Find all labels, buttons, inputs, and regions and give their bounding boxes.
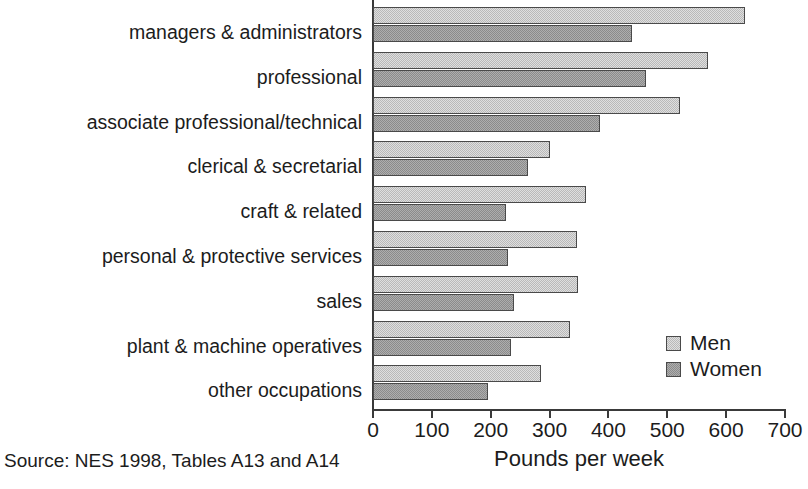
legend-label: Women xyxy=(690,358,762,380)
legend-swatch-men-icon xyxy=(666,336,681,351)
category-label: clerical & secretarial xyxy=(2,156,362,176)
bar-men xyxy=(373,321,570,338)
legend-item-men: Men xyxy=(666,330,762,356)
bar-women xyxy=(373,115,600,132)
x-tick-mark xyxy=(549,411,551,418)
category-label: plant & machine operatives xyxy=(2,336,362,356)
category-label: associate professional/technical xyxy=(2,112,362,132)
x-axis-line xyxy=(372,409,786,411)
category-label: other occupations xyxy=(2,380,362,400)
x-tick-label: 0 xyxy=(367,418,379,442)
x-tick-mark xyxy=(607,411,609,418)
x-axis-title: Pounds per week xyxy=(373,446,785,472)
category-label: personal & protective services xyxy=(2,246,362,266)
bar-women xyxy=(373,249,508,266)
bar-women xyxy=(373,294,514,311)
bar-men xyxy=(373,7,745,24)
category-label: managers & administrators xyxy=(2,22,362,42)
bar-men xyxy=(373,276,578,293)
legend-swatch-women-icon xyxy=(666,362,681,377)
category-label: sales xyxy=(2,291,362,311)
bar-men xyxy=(373,141,550,158)
x-tick-label: 100 xyxy=(414,418,449,442)
bar-chart-figure: managers & administratorsprofessionalass… xyxy=(0,0,808,489)
x-tick-mark xyxy=(490,411,492,418)
x-tick-mark xyxy=(666,411,668,418)
chart-legend: MenWomen xyxy=(666,330,762,382)
source-note: Source: NES 1998, Tables A13 and A14 xyxy=(4,450,340,472)
bar-women xyxy=(373,25,632,42)
x-tick-label: 700 xyxy=(767,418,802,442)
category-label: professional xyxy=(2,67,362,87)
bar-men xyxy=(373,231,577,248)
bar-women xyxy=(373,204,506,221)
x-tick-label: 500 xyxy=(650,418,685,442)
x-tick-label: 200 xyxy=(473,418,508,442)
legend-item-women: Women xyxy=(666,356,762,382)
bar-women xyxy=(373,339,511,356)
category-label: craft & related xyxy=(2,201,362,221)
category-axis-labels: managers & administratorsprofessionalass… xyxy=(0,0,368,410)
x-tick-label: 400 xyxy=(591,418,626,442)
x-tick-label: 600 xyxy=(709,418,744,442)
bar-women xyxy=(373,159,528,176)
legend-label: Men xyxy=(690,332,731,354)
x-tick-mark xyxy=(784,411,786,418)
bar-men xyxy=(373,52,708,69)
x-tick-mark xyxy=(725,411,727,418)
bar-men xyxy=(373,186,586,203)
x-tick-label: 300 xyxy=(532,418,567,442)
bar-men xyxy=(373,365,541,382)
bar-women xyxy=(373,383,488,400)
x-tick-mark xyxy=(372,411,374,418)
bar-women xyxy=(373,70,646,87)
bar-men xyxy=(373,97,680,114)
x-tick-mark xyxy=(431,411,433,418)
